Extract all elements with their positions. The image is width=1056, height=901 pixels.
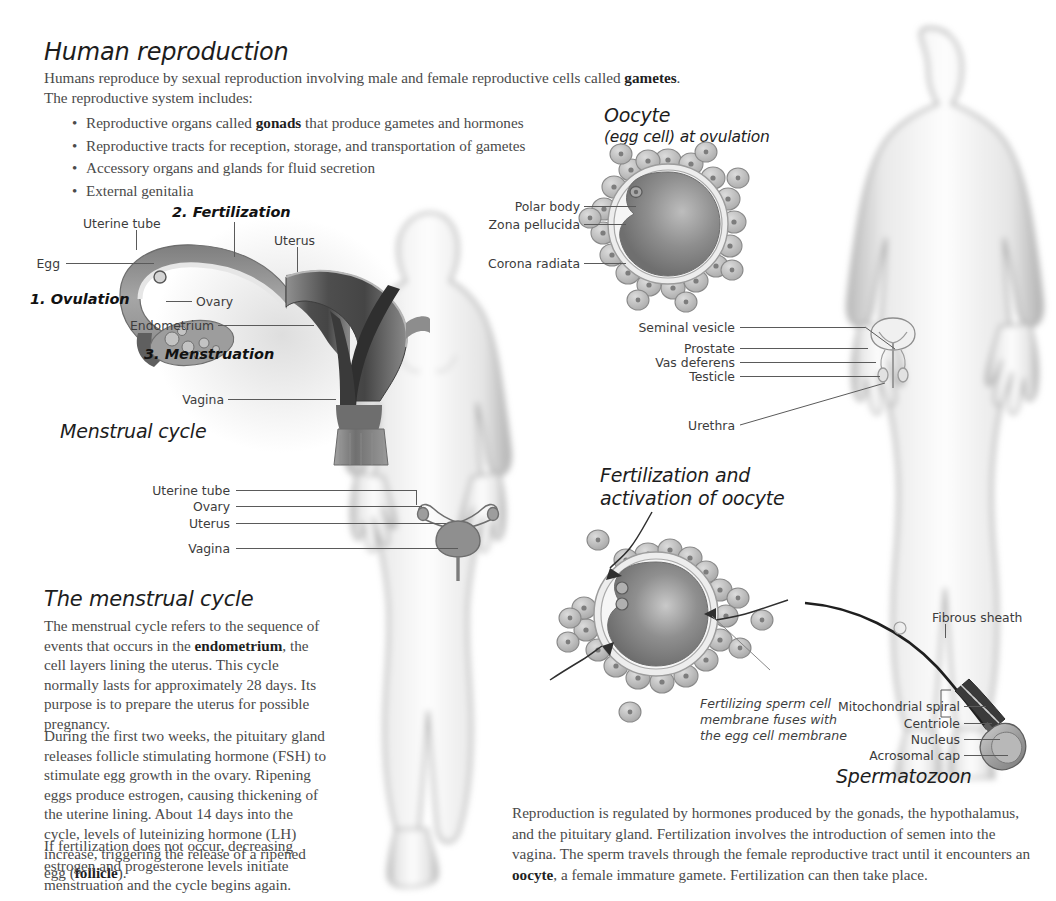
label-corona-radiata: Corona radiata	[488, 256, 580, 271]
label-seminal-vesicle: Seminal vesicle	[620, 320, 735, 335]
intro-paragraph: Humans reproduce by sexual reproduction …	[44, 68, 684, 107]
bold-oocyte: oocyte	[512, 866, 553, 883]
step-fertilization: 2. Fertilization	[172, 204, 291, 220]
label-centriole: Centriole	[858, 716, 960, 731]
label-endometrium: Endometrium	[130, 318, 214, 333]
page-title: Human reproduction	[44, 38, 289, 66]
label-uterine-tube: Uterine tube	[83, 216, 161, 231]
leader-corona-radiata	[584, 263, 626, 264]
label-polar-body: Polar body	[500, 199, 580, 214]
menstrual-cycle-paragraph-3: If fertilization does not occur, decreas…	[44, 836, 330, 895]
bold-endometrium: endometrium	[195, 637, 283, 654]
leader-fibrous-sheath	[945, 624, 946, 638]
leader-endometrium	[218, 325, 314, 326]
step-menstruation: 3. Menstruation	[144, 346, 274, 362]
leader-vagina	[228, 399, 336, 400]
leader-female-uterine-tube-b	[416, 490, 417, 505]
leader-female-ovary	[236, 506, 422, 507]
oocyte-illustration	[578, 142, 758, 322]
leader-uterus	[297, 247, 298, 272]
leader-zona-pellucida	[584, 224, 626, 225]
menstrual-cycle-paragraph-1: The menstrual cycle refers to the sequen…	[44, 616, 330, 734]
female-reproductive-organs-inset	[398, 495, 518, 585]
oocyte-title: Oocyte	[604, 104, 670, 127]
fertilization-caption: Fertilizing sperm cell membrane fuses wi…	[700, 696, 850, 744]
leader-acrosomal-cap	[964, 755, 1008, 756]
reproductive-system-list: Reproductive organs called gonads that p…	[60, 112, 606, 202]
leader-vas-deferens	[740, 362, 876, 363]
step-ovulation: 1. Ovulation	[30, 291, 130, 307]
leader-seminal-diagonals	[861, 327, 901, 387]
leader-centriole	[964, 723, 992, 724]
leader-prostate	[740, 348, 868, 349]
label-ovary: Ovary	[196, 294, 233, 309]
leader-female-uterine-tube	[236, 490, 416, 491]
label-female-uterus: Uterus	[150, 516, 230, 531]
leader-testicle	[740, 376, 880, 377]
list-item: Reproductive organs called gonads that p…	[86, 112, 606, 135]
label-egg: Egg	[22, 256, 60, 271]
label-prostate: Prostate	[620, 341, 735, 356]
leader-ovary	[166, 301, 192, 302]
leader-uterine-tube	[136, 230, 137, 250]
label-nucleus: Nucleus	[858, 732, 960, 747]
label-uterus: Uterus	[274, 233, 315, 248]
label-female-vagina: Vagina	[150, 541, 230, 556]
list-item: Accessory organs and glands for fluid se…	[86, 157, 606, 180]
label-urethra: Urethra	[620, 418, 735, 433]
fertilization-title: Fertilization and activation of oocyte	[600, 464, 785, 510]
label-mitochondrial-spiral: Mitochondrial spiral	[838, 699, 960, 714]
label-testicle: Testicle	[620, 369, 735, 384]
leader-female-vagina	[236, 548, 458, 549]
leader-urethra	[740, 380, 900, 440]
label-female-uterine-tube: Uterine tube	[150, 483, 230, 498]
leader-mitochondrial-spiral	[964, 706, 986, 707]
leader-nucleus	[964, 739, 1000, 740]
menstrual-cycle-caption: Menstrual cycle	[60, 420, 206, 443]
spermatozoon-title: Spermatozoon	[836, 765, 972, 788]
leader-seminal-vesicle	[740, 327, 865, 328]
leader-female-uterus	[236, 523, 446, 524]
label-fibrous-sheath: Fibrous sheath	[932, 610, 1022, 625]
list-item: Reproductive tracts for reception, stora…	[86, 135, 606, 158]
intro-bold-gametes: gametes	[624, 69, 676, 86]
summary-paragraph: Reproduction is regulated by hormones pr…	[512, 803, 1036, 885]
label-female-ovary: Ovary	[150, 499, 230, 514]
label-vas-deferens: Vas deferens	[620, 355, 735, 370]
label-zona-pellucida: Zona pellucida	[488, 217, 580, 232]
label-acrosomal-cap: Acrosomal cap	[848, 748, 960, 763]
leader-egg	[66, 263, 154, 264]
leader-fertilization	[234, 222, 235, 257]
label-vagina: Vagina	[174, 392, 224, 407]
menstrual-cycle-heading: The menstrual cycle	[44, 588, 253, 611]
leader-polar-body	[584, 206, 636, 207]
